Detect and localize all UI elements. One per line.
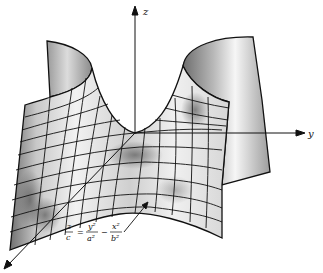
eq-equals: = (77, 228, 84, 237)
eq-lhs-num: z (66, 222, 72, 231)
eq-minus: − (101, 228, 108, 237)
eq-lhs-den: c (66, 233, 71, 242)
z-axis-arrow-icon (132, 6, 138, 15)
saddle-surface-figure: z y z c = y² a² − x² b² (0, 0, 323, 273)
eq-term1-den: a² (87, 234, 95, 243)
y-axis-label: y (307, 128, 314, 139)
eq-term2-num: x² (112, 222, 120, 231)
eq-term1-num: y² (87, 222, 96, 231)
x-axis-arrow-icon (4, 260, 12, 269)
z-axis-label: z (142, 6, 149, 17)
eq-term2-den: b² (111, 234, 119, 243)
y-axis-arrow-icon (296, 130, 305, 136)
